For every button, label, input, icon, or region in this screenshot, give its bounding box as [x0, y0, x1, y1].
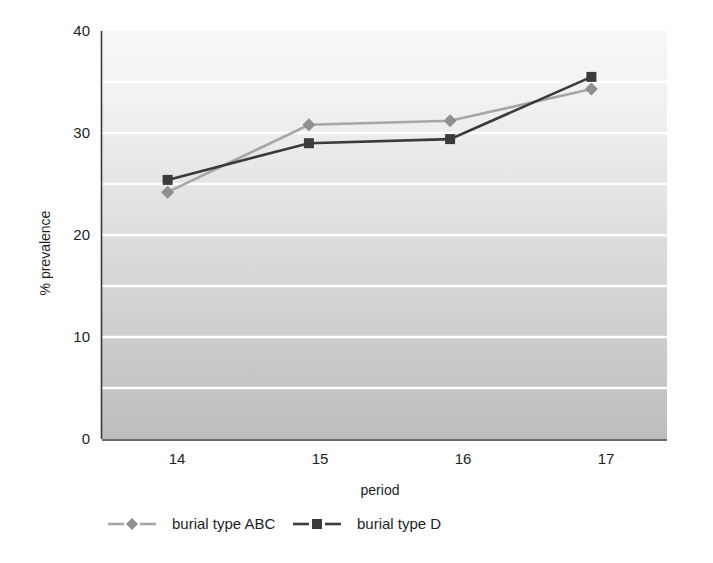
legend-marker-diamond-icon — [126, 518, 138, 530]
x-tick-labels: 14 15 16 17 — [169, 450, 615, 467]
data-point-d-16 — [445, 134, 455, 144]
x-axis-title: period — [361, 482, 400, 498]
y-tick-label-20: 20 — [73, 226, 90, 243]
y-tick-labels: 0 10 20 30 40 — [73, 22, 90, 447]
y-axis-title: % prevalence — [37, 210, 53, 295]
chart-container: 0 10 20 30 40 14 15 16 17 period % preva… — [0, 0, 713, 563]
data-point-d-17 — [586, 72, 596, 82]
x-tick-label-14: 14 — [169, 450, 186, 467]
x-tick-label-16: 16 — [455, 450, 472, 467]
y-tick-label-40: 40 — [73, 22, 90, 39]
data-point-d-15 — [304, 138, 314, 148]
chart-legend: burial type ABC burial type D — [108, 515, 441, 532]
y-tick-label-10: 10 — [73, 328, 90, 345]
data-point-d-14 — [163, 175, 173, 185]
y-tick-label-0: 0 — [82, 430, 90, 447]
legend-label-abc: burial type ABC — [172, 515, 276, 532]
legend-item-burial-type-abc[interactable]: burial type ABC — [108, 515, 276, 532]
x-tick-label-17: 17 — [598, 450, 615, 467]
legend-label-d: burial type D — [357, 515, 441, 532]
legend-marker-square-icon — [312, 519, 322, 529]
y-tick-label-30: 30 — [73, 124, 90, 141]
legend-item-burial-type-d[interactable]: burial type D — [293, 515, 441, 532]
x-tick-label-15: 15 — [312, 450, 329, 467]
line-chart: 0 10 20 30 40 14 15 16 17 period % preva… — [0, 0, 713, 563]
